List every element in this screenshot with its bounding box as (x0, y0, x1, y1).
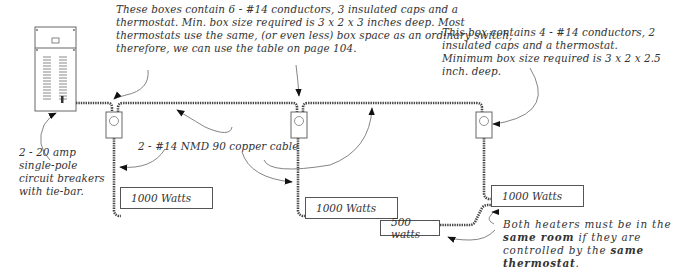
heater-3: 1000 Watts (491, 185, 584, 207)
breaker-note: 2 - 20 amp single-pole circuit breakers … (19, 146, 107, 198)
heater-1-label: 1000 Watts (131, 192, 191, 204)
thermostat-box-icon-3 (476, 112, 492, 138)
single-box-note: This box contains 4 - #14 conductors, 2 … (442, 26, 667, 78)
electrical-panel-icon (35, 27, 76, 111)
thermostat-box-icon-2 (291, 112, 307, 138)
same-room-note-part: Both heaters must be in the (503, 218, 671, 230)
heater-2-label: 1000 Watts (316, 202, 376, 214)
heater-1: 1000 Watts (120, 187, 213, 209)
same-room-emphasis: same room (503, 231, 574, 243)
cable-note: 2 - #14 NMD 90 copper cable (138, 140, 308, 153)
thermostat-box-icon-1 (106, 112, 122, 138)
same-room-note-part: . (576, 257, 580, 269)
heater-2: 1000 Watts (305, 197, 398, 219)
same-room-note: Both heaters must be in the same room if… (503, 218, 673, 270)
heater-4: 500 watts (380, 220, 440, 236)
heater-3-label: 1000 Watts (502, 190, 562, 202)
heater-4-label: 500 watts (391, 216, 439, 240)
